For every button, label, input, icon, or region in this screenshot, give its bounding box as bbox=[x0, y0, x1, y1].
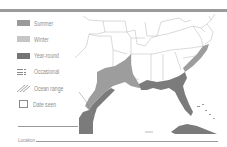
legend-item-occasional: Occasional bbox=[17, 66, 77, 78]
winter-swatch-icon bbox=[17, 36, 30, 42]
dashed-grid-icon bbox=[17, 68, 30, 75]
legend-item-ocean-range: Ocean range bbox=[17, 82, 77, 94]
summer-swatch-icon bbox=[17, 20, 30, 26]
location-input-line[interactable] bbox=[36, 141, 218, 142]
year-round-range-cuba bbox=[171, 124, 221, 134]
legend-label: Date seen bbox=[33, 101, 56, 108]
year-round-swatch-icon bbox=[17, 53, 30, 59]
legend-label: Year-round bbox=[34, 52, 59, 59]
hatch-lines-icon bbox=[17, 84, 30, 92]
legend-label: Winter bbox=[34, 36, 49, 43]
summer-range bbox=[85, 54, 145, 110]
date-seen-line[interactable] bbox=[18, 126, 78, 127]
range-map bbox=[75, 14, 227, 134]
legend: Summer Winter Year-round Occasional Ocea… bbox=[17, 17, 77, 115]
legend-label: Ocean range bbox=[34, 85, 63, 92]
top-rule bbox=[0, 9, 227, 12]
location-label: Location bbox=[18, 137, 32, 143]
legend-item-winter: Winter bbox=[17, 33, 77, 45]
legend-label: Summer bbox=[34, 20, 53, 27]
legend-item-year-round: Year-round bbox=[17, 50, 77, 62]
year-round-range bbox=[139, 72, 193, 116]
date-seen-checkbox[interactable] bbox=[19, 100, 28, 108]
location-field[interactable]: Location bbox=[18, 137, 218, 143]
legend-item-summer: Summer bbox=[17, 17, 77, 29]
bahamas-islands bbox=[197, 104, 215, 119]
legend-label: Occasional bbox=[34, 68, 59, 75]
top-caption-cutoff bbox=[80, 0, 220, 3]
legend-item-date-seen: Date seen bbox=[17, 98, 77, 110]
state-borders bbox=[75, 14, 215, 80]
